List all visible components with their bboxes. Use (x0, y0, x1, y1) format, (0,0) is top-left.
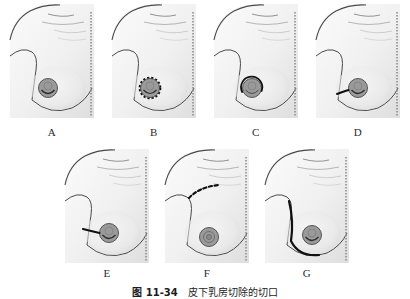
torso-illustration-b (104, 0, 204, 128)
figure-panel-b: B (104, 0, 204, 128)
areola-marker-b (141, 79, 160, 98)
areola-marker-c (243, 79, 262, 98)
figure-caption: 图 11-34皮下乳房切除的切口 (0, 284, 410, 299)
figure-panel-f: F (157, 145, 257, 273)
panel-label-c: C (206, 126, 306, 138)
panel-label-b: B (104, 126, 204, 138)
panel-label-g: G (257, 267, 357, 279)
figure-panel-d: D (308, 0, 408, 128)
figure-panel-a: A (2, 0, 102, 128)
areola-marker-a (39, 79, 58, 98)
figure-caption-text: 皮下乳房切除的切口 (188, 287, 278, 298)
torso-illustration-g (257, 145, 357, 273)
areola-marker-g (303, 226, 322, 245)
areola-marker-f (200, 228, 219, 247)
panel-row-top: A (0, 0, 410, 148)
torso-illustration-c (206, 0, 306, 128)
torso-illustration-e (57, 145, 157, 273)
figure-panel-c: C (206, 0, 306, 128)
torso-illustration-d (308, 0, 408, 128)
panel-label-d: D (308, 126, 408, 138)
panel-label-f: F (157, 267, 257, 279)
torso-illustration-a (2, 0, 102, 128)
panel-label-e: E (57, 267, 157, 279)
panel-label-a: A (2, 126, 102, 138)
areola-marker-d (349, 79, 368, 98)
figure-panel-g: G (257, 145, 357, 273)
areola-marker-e (100, 224, 119, 243)
torso-illustration-f (157, 145, 257, 273)
figure-caption-number: 图 11-34 (132, 287, 177, 298)
figure-panel-e: E (57, 145, 157, 273)
panel-row-bottom: E (0, 145, 410, 275)
